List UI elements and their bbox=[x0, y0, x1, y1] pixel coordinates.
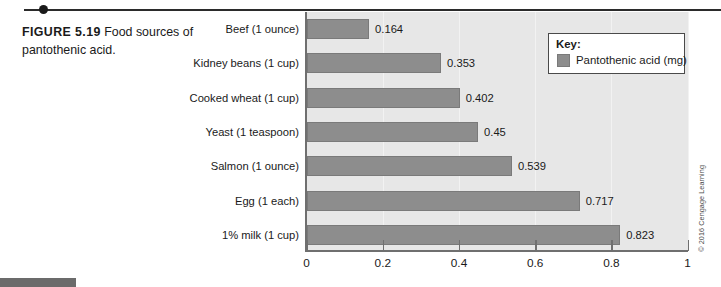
bar-value-label: 0.353 bbox=[447, 57, 475, 69]
x-axis-line bbox=[305, 250, 688, 252]
copyright-notice: © 2016 Cengage Learning bbox=[697, 165, 706, 252]
x-axis-tick bbox=[307, 240, 308, 251]
category-label: Yeast (1 teaspoon) bbox=[205, 126, 299, 138]
bar-value-label: 0.402 bbox=[466, 92, 494, 104]
category-label: 1% milk (1 cup) bbox=[222, 229, 299, 241]
bar bbox=[307, 225, 621, 245]
bar-value-label: 0.164 bbox=[375, 23, 403, 35]
legend-title: Key: bbox=[556, 38, 581, 50]
gridline bbox=[688, 12, 689, 250]
category-label: Egg (1 each) bbox=[235, 195, 299, 207]
x-axis-tick bbox=[535, 240, 536, 251]
bar-value-label: 0.823 bbox=[626, 229, 654, 241]
x-axis-tick-label: 1 bbox=[684, 256, 691, 270]
chart-legend: Key: Pantothenic acid (mg) bbox=[548, 33, 685, 74]
x-axis-tick bbox=[459, 240, 460, 251]
x-axis-tick-label: 0.8 bbox=[603, 256, 619, 270]
x-axis-tick-label: 0.4 bbox=[451, 256, 467, 270]
x-axis-tick bbox=[611, 240, 612, 251]
legend-series-label: Pantothenic acid (mg) bbox=[576, 54, 687, 66]
category-label: Salmon (1 ounce) bbox=[211, 160, 299, 172]
gridline bbox=[535, 12, 536, 250]
x-axis-tick-label: 0 bbox=[303, 256, 310, 270]
figure-bullet-dot bbox=[39, 5, 48, 14]
category-label: Cooked wheat (1 cup) bbox=[190, 92, 299, 104]
bar bbox=[307, 53, 441, 73]
bar-value-label: 0.45 bbox=[484, 126, 506, 138]
figure-caption: FIGURE 5.19 Food sources of pantothenic … bbox=[22, 23, 194, 59]
bar bbox=[307, 88, 460, 108]
bar-value-label: 0.717 bbox=[586, 195, 614, 207]
figure-number-label: FIGURE 5.19 bbox=[22, 25, 101, 39]
y-axis-line bbox=[305, 12, 307, 252]
bar bbox=[307, 122, 478, 142]
bar-chart: Beef (1 ounce)Kidney beans (1 cup)Cooked… bbox=[186, 12, 690, 274]
x-axis-tick bbox=[688, 240, 689, 251]
bar bbox=[307, 191, 580, 211]
x-axis-tick-label: 0.6 bbox=[527, 256, 543, 270]
x-axis-tick-label: 0.2 bbox=[375, 256, 391, 270]
bar bbox=[307, 19, 369, 39]
legend-color-swatch bbox=[557, 54, 570, 67]
x-axis-tick bbox=[383, 240, 384, 251]
figure-top-rule bbox=[24, 9, 721, 11]
category-label: Beef (1 ounce) bbox=[226, 23, 299, 35]
category-axis-labels: Beef (1 ounce)Kidney beans (1 cup)Cooked… bbox=[186, 12, 303, 252]
page-edge-artifact bbox=[0, 278, 76, 287]
bar bbox=[307, 156, 512, 176]
bar-value-label: 0.539 bbox=[518, 160, 546, 172]
category-label: Kidney beans (1 cup) bbox=[193, 57, 299, 69]
